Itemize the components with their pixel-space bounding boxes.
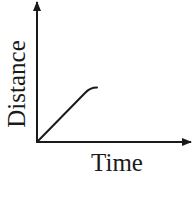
distance-curve (37, 87, 97, 142)
y-axis-label: Distance (3, 40, 30, 127)
x-axis-label: Time (91, 149, 143, 176)
distance-time-chart: Distance Time (0, 0, 193, 204)
